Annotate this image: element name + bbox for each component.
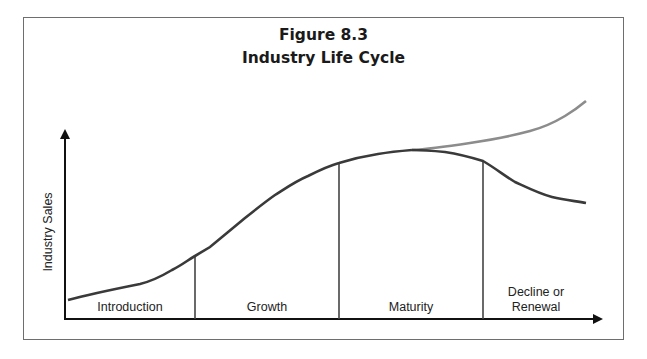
sales-curve [68,150,412,300]
phase-label-renewal: Renewal [508,300,564,315]
phase-label-decline: Decline or [508,285,564,300]
phase-label-growth: Growth [247,300,287,315]
decline-curve [412,150,586,203]
phase-label-decline-renewal: Decline or Renewal [508,285,564,315]
renewal-curve [412,101,586,150]
y-axis-label: Industry Sales [41,192,55,271]
phase-label-introduction: Introduction [97,300,162,315]
phase-label-maturity: Maturity [389,300,433,315]
